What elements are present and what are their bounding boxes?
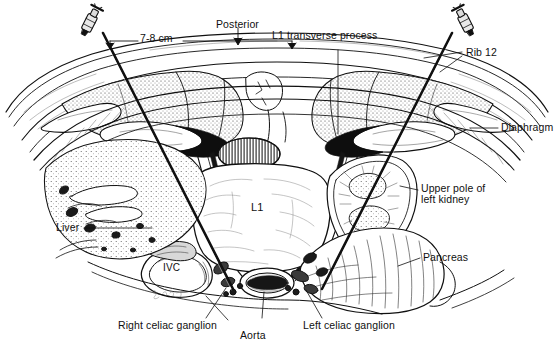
- leader-rib12-b: [440, 56, 462, 72]
- label-left-celiac-ganglion: Left celiac ganglion: [303, 320, 395, 332]
- anatomic-figure: Posterior 7-8 cm L1 transverse process R…: [0, 0, 555, 350]
- label-7-8-cm: 7-8 cm: [140, 33, 173, 45]
- aorta: [240, 268, 294, 298]
- liver: [45, 139, 207, 258]
- spinous-process: [246, 72, 286, 142]
- label-pancreas: Pancreas: [423, 252, 468, 264]
- leader-right-ganglion-2: [206, 296, 228, 320]
- label-ivc: IVC: [163, 262, 180, 274]
- label-posterior: Posterior: [216, 19, 259, 31]
- label-liver: Liver: [56, 222, 79, 234]
- label-l1-transverse-process: L1 transverse process: [272, 30, 377, 42]
- label-upper-pole-left-kidney-line2: left kidney: [421, 194, 469, 205]
- label-rib-12: Rib 12: [466, 47, 497, 59]
- label-aorta: Aorta: [240, 330, 266, 342]
- posterior-pointer: [234, 28, 242, 45]
- label-diaphragm: Diaphragm: [501, 122, 553, 134]
- label-right-celiac-ganglion: Right celiac ganglion: [118, 320, 217, 332]
- label-l1-vertebral-body: L1: [251, 202, 263, 214]
